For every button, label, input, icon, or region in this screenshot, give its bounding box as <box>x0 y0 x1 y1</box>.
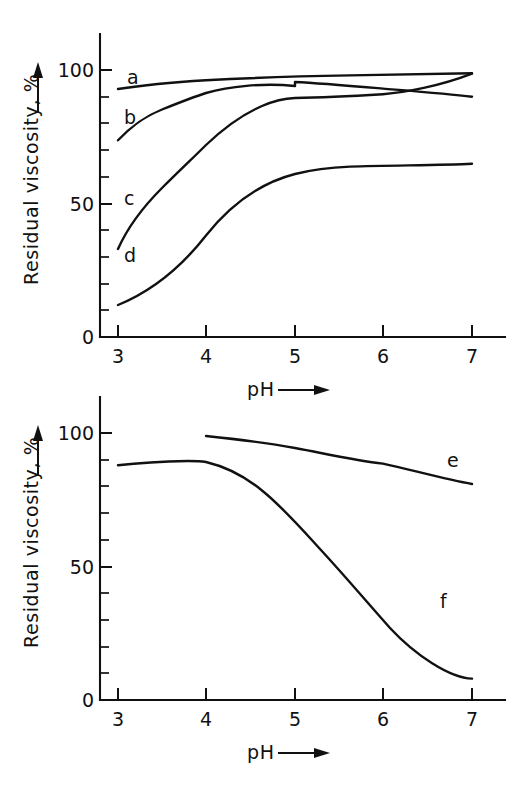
figure-container: 100 50 0 3 4 5 6 7 <box>0 0 525 785</box>
bottom-xtick-label-5: 5 <box>289 708 301 730</box>
curve-label-e: e <box>447 449 459 471</box>
top-ytick-label-0: 0 <box>82 326 94 348</box>
top-x-axis-title: pH <box>247 378 275 400</box>
bottom-x-ticks <box>118 688 472 700</box>
curve-label-a: a <box>127 66 139 88</box>
curve-b <box>118 82 472 140</box>
bottom-panel-curves <box>118 436 472 679</box>
bottom-y-axis-title-group: Residual viscosity, % <box>20 425 43 648</box>
bottom-panel-curve-labels: e f <box>440 449 459 612</box>
two-panel-ph-viscosity-chart: 100 50 0 3 4 5 6 7 <box>0 0 525 785</box>
top-x-axis-title-group: pH <box>247 378 330 400</box>
top-xtick-label-5: 5 <box>289 345 301 367</box>
top-x-tick-labels: 3 4 5 6 7 <box>112 345 478 367</box>
curve-label-f: f <box>440 590 448 612</box>
top-panel-curves <box>118 73 472 305</box>
curve-label-d: d <box>124 244 136 266</box>
top-panel-axes <box>100 34 505 337</box>
top-ytick-label-100: 100 <box>58 59 94 81</box>
top-xtick-label-6: 6 <box>377 345 389 367</box>
bottom-x-axis-title-group: pH <box>247 741 330 763</box>
top-y-tick-labels: 100 50 0 <box>58 59 94 348</box>
curve-c <box>118 74 472 249</box>
bottom-x-tick-labels: 3 4 5 6 7 <box>112 708 478 730</box>
bottom-ytick-label-50: 50 <box>70 556 94 578</box>
bottom-panel: 100 50 0 3 4 5 6 7 <box>20 397 505 763</box>
top-y-axis-title-group: Residual viscosity, % <box>20 62 43 285</box>
bottom-x-axis-arrow-icon <box>278 748 330 758</box>
bottom-y-ticks <box>100 433 112 700</box>
curve-e <box>206 436 472 484</box>
bottom-panel-axes <box>100 397 505 700</box>
top-xtick-label-4: 4 <box>200 345 212 367</box>
bottom-x-axis-title: pH <box>247 741 275 763</box>
top-ytick-label-50: 50 <box>70 193 94 215</box>
bottom-ytick-label-100: 100 <box>58 422 94 444</box>
curve-label-b: b <box>124 106 136 128</box>
bottom-xtick-label-7: 7 <box>466 708 478 730</box>
curve-d <box>118 164 472 305</box>
bottom-xtick-label-4: 4 <box>200 708 212 730</box>
bottom-xtick-label-6: 6 <box>377 708 389 730</box>
bottom-ytick-label-0: 0 <box>82 689 94 711</box>
top-xtick-label-3: 3 <box>112 345 124 367</box>
top-x-axis-arrow-icon <box>278 385 330 395</box>
top-panel-curve-labels: a b c d <box>124 66 139 266</box>
curve-label-c: c <box>124 187 134 209</box>
curve-f <box>118 461 472 679</box>
top-x-ticks <box>118 325 472 337</box>
top-y-ticks <box>100 70 112 337</box>
bottom-xtick-label-3: 3 <box>112 708 124 730</box>
bottom-y-tick-labels: 100 50 0 <box>58 422 94 711</box>
top-panel: 100 50 0 3 4 5 6 7 <box>20 34 505 400</box>
top-xtick-label-7: 7 <box>466 345 478 367</box>
